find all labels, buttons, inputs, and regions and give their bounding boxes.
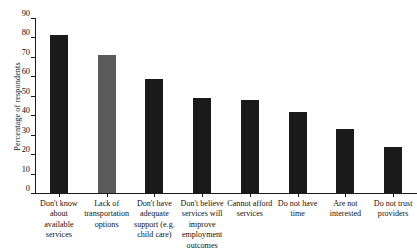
y-tick-label: 70	[22, 52, 30, 53]
x-label-line: services will	[176, 209, 228, 219]
bar-6	[289, 112, 307, 193]
x-tick-mark	[345, 193, 346, 197]
x-label-line: employment	[176, 230, 228, 240]
bar-5	[241, 100, 259, 193]
y-axis-title: Percentage of respondents	[13, 27, 22, 187]
x-label-line: Lack of	[81, 199, 133, 209]
x-tick-mark	[250, 193, 251, 197]
bar-8	[384, 147, 402, 193]
x-label-line: Are not	[319, 199, 371, 209]
bar-series	[35, 18, 417, 193]
x-label-line: outcomes	[176, 241, 228, 251]
y-tick-label: 0	[26, 188, 30, 189]
x-tick-mark	[59, 193, 60, 197]
x-label-line: options	[81, 220, 133, 230]
x-label-line: Do not trust	[367, 199, 417, 209]
y-tick-label: 90	[22, 13, 30, 14]
plot-area: 0102030405060708090	[35, 18, 417, 193]
x-label-line: improve	[176, 220, 228, 230]
x-label-line: Do not have	[272, 199, 324, 209]
y-tick-label: 50	[22, 91, 30, 92]
bar-3	[145, 79, 163, 193]
x-axis-label-1: Don't knowaboutavailableservices	[33, 199, 85, 241]
x-axis-line	[35, 193, 417, 194]
x-tick-mark	[393, 193, 394, 197]
x-label-line: interested	[319, 209, 371, 219]
x-label-line: providers	[367, 209, 417, 219]
x-tick-mark	[107, 193, 108, 197]
y-tick-label: 30	[22, 130, 30, 131]
x-label-line: Don't have	[128, 199, 180, 209]
x-label-line: Cannot afford	[224, 199, 276, 209]
x-tick-mark	[202, 193, 203, 197]
y-tick-label: 80	[22, 32, 30, 33]
x-label-line: available	[33, 220, 85, 230]
x-axis-label-2: Lack oftransportationoptions	[81, 199, 133, 230]
x-axis-label-3: Don't haveadequatesupport (e.g.child car…	[128, 199, 180, 241]
x-axis-label-5: Cannot affordservices	[224, 199, 276, 220]
x-label-line: transportation	[81, 209, 133, 219]
bar-4	[193, 98, 211, 193]
bar-1	[50, 35, 68, 193]
x-label-line: Don't believe	[176, 199, 228, 209]
x-tick-mark	[154, 193, 155, 197]
x-axis-label-4: Don't believeservices willimproveemploym…	[176, 199, 228, 251]
x-axis-label-6: Do not havetime	[272, 199, 324, 220]
x-axis-labels: Don't knowaboutavailableservicesLack oft…	[35, 199, 417, 252]
x-label-line: support (e.g.	[128, 220, 180, 230]
y-tick-label: 60	[22, 71, 30, 72]
x-axis-label-7: Are notinterested	[319, 199, 371, 220]
x-axis-label-8: Do not trustproviders	[367, 199, 417, 220]
y-tick-mark	[31, 193, 35, 194]
bar-chart: Percentage of respondents 01020304050607…	[0, 0, 417, 252]
x-label-line: adequate	[128, 209, 180, 219]
y-tick-label: 10	[22, 169, 30, 170]
x-label-line: services	[224, 209, 276, 219]
y-tick-label: 20	[22, 149, 30, 150]
bar-2	[98, 55, 116, 193]
bar-7	[336, 129, 354, 193]
x-label-line: child care)	[128, 230, 180, 240]
x-label-line: services	[33, 230, 85, 240]
x-label-line: about	[33, 209, 85, 219]
x-tick-mark	[298, 193, 299, 197]
x-label-line: Don't know	[33, 199, 85, 209]
x-label-line: time	[272, 209, 324, 219]
y-tick-label: 40	[22, 110, 30, 111]
